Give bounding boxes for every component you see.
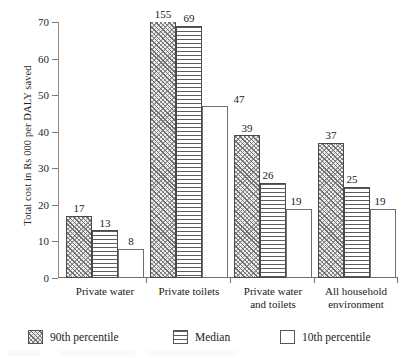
bar-private-water-90th	[66, 216, 92, 278]
bar-value-label: 37	[326, 130, 337, 141]
bar-private-water-and-toilets-median	[260, 183, 286, 278]
bar-all-household-environment-90th	[318, 143, 344, 278]
x-axis-separator	[314, 277, 315, 283]
bar-value-label: 155	[155, 9, 172, 20]
plot-area: 70 60 50 40 30 20 10 0	[58, 22, 398, 278]
legend-item-10th-percentile: 10th percentile	[280, 330, 371, 344]
legend-swatch-90th-percentile-icon	[28, 330, 43, 344]
bar-all-household-environment-10th	[370, 209, 396, 278]
legend-label: 10th percentile	[302, 331, 371, 343]
legend-label: Median	[195, 331, 230, 343]
y-axis-line	[58, 22, 59, 278]
bar-private-water-and-toilets-90th	[234, 135, 260, 278]
x-axis-separator	[146, 277, 147, 283]
bar-private-toilets-10th	[202, 106, 228, 278]
bar-value-label: 69	[184, 13, 195, 24]
legend-item-90th-percentile: 90th percentile	[28, 330, 119, 344]
bar-private-water-and-toilets-10th	[286, 209, 312, 278]
bar-private-toilets-90th	[150, 22, 176, 278]
bar-private-water-10th	[118, 249, 144, 278]
bar-value-label: 47	[234, 94, 245, 105]
bar-value-label: 25	[347, 174, 358, 185]
bar-value-label: 19	[291, 196, 302, 207]
y-axis-title: Total cost in Rs 000 per DALY saved	[22, 26, 33, 266]
bar-value-label: 26	[263, 170, 274, 181]
bar-value-label: 19	[375, 196, 386, 207]
legend-swatch-10th-percentile-icon	[280, 330, 295, 344]
bar-private-water-median	[92, 230, 118, 278]
x-axis-category-label-all-household-environment: All household environment	[296, 285, 408, 311]
bar-value-label: 13	[100, 218, 111, 229]
scan-artifact	[8, 350, 238, 356]
legend: 90th percentile Median 10th percentile	[0, 328, 408, 352]
x-axis-separator	[230, 277, 231, 283]
bar-value-label: 17	[74, 203, 85, 214]
bar-value-label: 39	[242, 123, 253, 134]
legend-label: 90th percentile	[50, 331, 119, 343]
bar-value-label: 8	[128, 236, 134, 247]
bar-all-household-environment-median	[344, 187, 370, 278]
legend-swatch-median-icon	[173, 330, 188, 344]
bar-private-toilets-median	[176, 26, 202, 278]
legend-item-median: Median	[173, 330, 230, 344]
x-axis-separator	[397, 277, 398, 283]
bar-chart: Total cost in Rs 000 per DALY saved 70 6…	[0, 0, 408, 358]
